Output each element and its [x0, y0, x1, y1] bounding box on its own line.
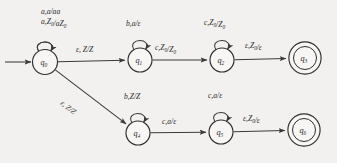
state-q3: q3 [289, 42, 321, 74]
loop-q1-label: b,a/ε [126, 19, 141, 28]
state-q0: q0 [33, 50, 58, 75]
state-q1: q1 [128, 48, 152, 72]
t-q1-q2-label: c,Z0/Z0 [155, 43, 176, 55]
state-label-subscript: 0 [44, 62, 47, 68]
state-label-subscript: 6 [303, 130, 306, 136]
state-label-subscript: 1 [139, 60, 142, 66]
loop-q0-line2-label: a,Z0/aZ0 [41, 17, 67, 29]
t-q0-q4-label: ε, Z/Z [59, 98, 79, 116]
loop-q2-label: c,Z0/Z0 [204, 18, 225, 30]
state-q5: q5 [209, 120, 233, 144]
state-label-subscript: 2 [221, 60, 224, 66]
t-q2-q3 [234, 58, 286, 59]
state-q2: q2 [210, 48, 234, 72]
t-q5-q6 [233, 130, 285, 131]
t-q0-q1-label: ε, Z/Z [76, 45, 94, 54]
t-q0-q1 [58, 60, 125, 61]
state-label-subscript: 3 [303, 58, 307, 64]
t-q4-q5-label: c,a/ε [162, 117, 176, 126]
state-label-subscript: 4 [137, 133, 140, 139]
t-q5-q6-label: ε,Z0/ε [243, 114, 260, 125]
state-q6: q6 [288, 114, 320, 146]
state-label-subscript: 5 [220, 132, 223, 138]
pda-state-diagram: q0q1q2q3q4q5q6 a,a/aaa,Z0/aZ0b,a/εc,Z0/Z… [0, 0, 337, 163]
loop-q5-label: c,a/ε [208, 91, 222, 100]
t-q0-q4 [55, 70, 126, 124]
t-q4-q5 [150, 132, 206, 133]
state-q4: q4 [126, 121, 150, 145]
loop-q0-line1-label: a,a/aa [41, 7, 60, 16]
loop-q4-label: b,Z/Z [124, 92, 141, 101]
t-q2-q3-label: ε,Z0/ε [245, 41, 262, 52]
